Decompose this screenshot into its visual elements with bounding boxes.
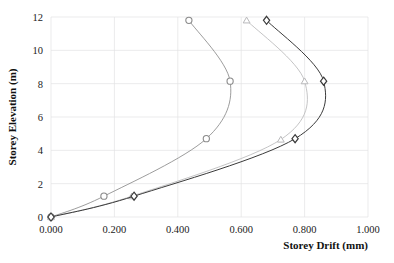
data-point-triangle	[301, 78, 308, 84]
y-axis-title: Storey Elevation (m)	[6, 68, 19, 165]
y-tick-label: 8	[38, 79, 43, 90]
tick-labels: 0.0000.2000.4000.6000.8001.000024681012	[33, 12, 380, 235]
x-tick-label: 0.800	[293, 224, 317, 235]
series-line	[51, 20, 307, 217]
x-tick-label: 1.000	[356, 224, 380, 235]
data-point-triangle	[277, 136, 284, 142]
series-3-diamond	[48, 16, 327, 221]
chart-page: 0.0000.2000.4000.6000.8001.000024681012S…	[0, 0, 394, 263]
data-point-circle	[101, 193, 107, 199]
x-tick-label: 0.200	[103, 224, 127, 235]
data-point-circle	[227, 78, 233, 84]
x-axis-title: Storey Drift (mm)	[283, 239, 368, 252]
y-tick-label: 4	[38, 145, 44, 156]
y-tick-label: 12	[33, 12, 44, 23]
data-point-circle	[203, 136, 209, 142]
x-tick-label: 0.400	[166, 224, 190, 235]
series-1-circle	[48, 17, 233, 220]
x-tick-label: 0.000	[39, 224, 63, 235]
y-tick-label: 6	[38, 112, 43, 123]
y-tick-label: 2	[38, 179, 43, 190]
data-point-triangle	[243, 17, 250, 23]
y-tick-label: 10	[33, 45, 44, 56]
gridlines	[51, 17, 368, 217]
x-tick-label: 0.600	[229, 224, 253, 235]
y-tick-label: 0	[38, 212, 43, 223]
series-line	[51, 20, 231, 217]
storey-drift-chart: 0.0000.2000.4000.6000.8001.000024681012S…	[0, 0, 394, 263]
data-point-circle	[186, 17, 192, 23]
data-point-diamond	[292, 135, 298, 143]
series-line	[51, 20, 326, 217]
